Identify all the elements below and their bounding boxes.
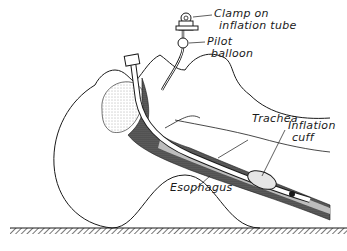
epiglottis-outline (165, 116, 200, 128)
ground-hatching (10, 228, 347, 234)
pilot-balloon (178, 38, 188, 48)
label-pilot-line2: balloon (211, 48, 253, 60)
label-inflation-cuff: Inflation cuff (288, 120, 336, 144)
label-clamp: Clamp on inflation tube (214, 8, 297, 32)
label-inflation-line2: cuff (292, 132, 336, 144)
tube-tip (289, 191, 295, 197)
label-clamp-line2: inflation tube (219, 20, 297, 32)
label-pilot-balloon: Pilot balloon (207, 36, 253, 60)
tube-connector (124, 54, 140, 66)
diagram-canvas: Clamp on inflation tube Pilot balloon Tr… (0, 0, 347, 251)
clamp-icon (176, 13, 198, 30)
label-esophagus: Esophagus (170, 182, 233, 194)
